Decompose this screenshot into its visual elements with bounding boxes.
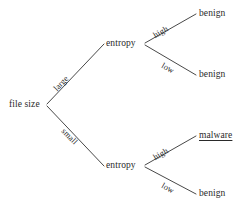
leaf-node-4: benign	[199, 189, 225, 199]
node-root-file-size: file size	[9, 100, 40, 110]
node-entropy-bottom: entropy	[106, 161, 136, 171]
leaf-node-3: malware	[199, 131, 232, 141]
decision-tree-diagram: file size entropy entropy large small hi…	[0, 0, 245, 210]
edge-bottom-high	[145, 136, 196, 165]
edge-root-large	[47, 44, 104, 104]
leaf-node-2: benign	[199, 70, 225, 80]
edge-top-high	[145, 14, 196, 43]
leaf-node-1: benign	[199, 9, 225, 19]
node-entropy-top: entropy	[106, 39, 136, 49]
